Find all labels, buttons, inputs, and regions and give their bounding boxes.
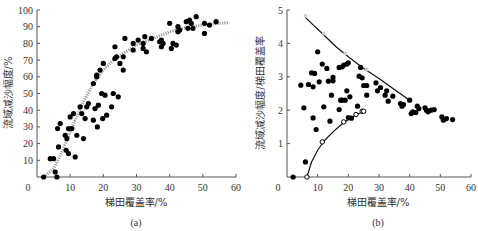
data-point (101, 61, 106, 66)
data-point (407, 98, 412, 103)
data-point (94, 73, 99, 78)
data-point (144, 49, 149, 54)
fit-curve (44, 23, 230, 177)
data-point (104, 113, 109, 118)
data-point (306, 82, 311, 87)
data-point (136, 37, 141, 42)
y-tick-label: 40 (23, 105, 33, 116)
data-point (86, 101, 91, 106)
data-point (78, 104, 83, 109)
data-point (330, 75, 335, 80)
y-tick-label: 4 (278, 38, 283, 49)
data-point (55, 126, 60, 131)
y-tick-label: 70 (23, 55, 33, 66)
x-axis-label: 梯田覆盖率/% (347, 196, 410, 208)
data-point (81, 136, 86, 141)
data-point (91, 81, 96, 86)
data-point (378, 85, 383, 90)
data-point (51, 156, 56, 161)
chart-b: 010203040506012345梯田覆盖率/%流域减沙幅度/梯田覆盖率(b) (254, 5, 476, 230)
figure-caption: (b) (372, 217, 384, 229)
data-point (142, 34, 147, 39)
y-tick-label: 90 (23, 21, 33, 32)
y-tick-label: 100 (18, 5, 33, 16)
data-point (71, 111, 76, 116)
y-tick-label: 1 (278, 138, 283, 149)
data-point (64, 136, 69, 141)
y-tick-label: 5 (278, 5, 283, 16)
data-point (326, 79, 331, 84)
data-point (56, 144, 61, 149)
data-point (190, 26, 195, 31)
data-point (315, 49, 320, 54)
y-axis-label: 流域减沙幅度/% (2, 57, 14, 130)
data-point (373, 80, 378, 85)
bound-marker (303, 14, 307, 18)
data-point (298, 83, 303, 88)
y-tick-label: 60 (23, 71, 33, 82)
data-point (324, 66, 329, 71)
data-point (343, 98, 348, 103)
data-point (131, 47, 136, 52)
data-point (386, 99, 391, 104)
figure: 0102030405060102030405060708090100梯田覆盖率/… (0, 0, 478, 231)
data-point (329, 93, 334, 98)
data-point (346, 60, 351, 65)
data-point (320, 62, 325, 67)
x-tick-label: 20 (98, 182, 108, 193)
data-point (416, 106, 421, 111)
x-tick-label: 60 (231, 182, 241, 193)
data-point (79, 111, 84, 116)
data-point (141, 41, 146, 46)
data-point (149, 36, 154, 41)
y-tick-label: 20 (23, 138, 33, 149)
y-tick-label: 80 (23, 38, 33, 49)
x-tick-label: 40 (405, 182, 415, 193)
data-point (82, 116, 87, 121)
data-point (177, 27, 182, 32)
data-point (53, 169, 58, 174)
data-point (214, 19, 219, 24)
data-point (41, 174, 46, 179)
data-point (450, 117, 455, 122)
data-point (116, 94, 121, 99)
y-tick-label: 30 (23, 121, 33, 132)
bound-marker (322, 31, 326, 35)
data-point (349, 116, 354, 121)
data-point (344, 88, 349, 93)
bound-point (305, 175, 309, 179)
data-point (66, 151, 71, 156)
bound-point (354, 112, 358, 116)
bound-marker (343, 51, 347, 55)
data-point (384, 88, 389, 93)
y-tick-label: 50 (23, 88, 33, 99)
data-point (174, 42, 179, 47)
data-point (207, 22, 212, 27)
bound-point (342, 120, 346, 124)
x-tick-label: 40 (165, 182, 175, 193)
data-point (69, 126, 74, 131)
data-point (432, 107, 437, 112)
data-point (96, 103, 101, 108)
data-point (327, 119, 332, 124)
data-point (310, 115, 315, 120)
data-point (444, 116, 449, 121)
data-point (91, 118, 96, 123)
data-point (121, 54, 126, 59)
x-tick-label: 30 (132, 182, 142, 193)
data-point (291, 174, 296, 179)
x-tick-label: 10 (65, 182, 75, 193)
data-point (202, 31, 207, 36)
data-point (185, 26, 190, 31)
data-point (312, 71, 317, 76)
chart-a: 0102030405060102030405060708090100梯田覆盖率/… (2, 5, 241, 230)
x-tick-label: 60 (466, 182, 476, 193)
data-point (54, 174, 59, 179)
data-point (301, 105, 306, 110)
data-point (102, 93, 107, 98)
data-point (303, 159, 308, 164)
y-tick-label: 2 (278, 105, 283, 116)
data-point (100, 116, 105, 121)
data-point (364, 83, 369, 88)
data-point (202, 21, 207, 26)
